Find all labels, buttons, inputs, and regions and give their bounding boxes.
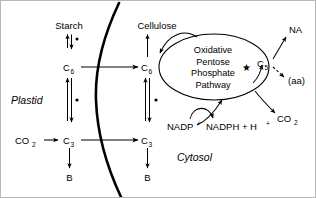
svg-text:2: 2	[294, 119, 298, 126]
oppp-line-4: Pathway	[195, 80, 231, 90]
svg-text:6: 6	[71, 68, 75, 75]
svg-text:C: C	[141, 135, 148, 146]
label-na: NA	[289, 24, 303, 35]
label-starch: Starch	[55, 20, 82, 31]
cytosol-c6-c3-marker-dot	[154, 98, 157, 101]
plastid-c6-c3-marker-dot	[75, 98, 78, 101]
pathway-figure: (aa) (dashed) --> ★ Starch Cellulose C 6…	[0, 0, 316, 198]
star-marker: ★	[242, 62, 251, 73]
svg-text:2: 2	[32, 141, 36, 148]
label-plastid-b: B	[66, 172, 72, 183]
svg-text:3: 3	[149, 141, 153, 148]
label-c5: C 5	[257, 58, 269, 71]
starch-reaction-marker-dot	[76, 38, 79, 41]
oppp-oval	[159, 34, 269, 100]
svg-text:NADP: NADP	[167, 121, 193, 132]
arrow-c5-to-aa-dashed	[273, 67, 284, 77]
svg-text:CO: CO	[15, 135, 29, 146]
arrow-c6-into-oppp	[160, 33, 197, 53]
label-nadph-h-plus: NADPH + H +	[206, 120, 270, 133]
svg-text:6: 6	[149, 68, 153, 75]
svg-text:NADPH + H: NADPH + H	[206, 121, 257, 132]
label-plastid-compartment: Plastid	[11, 94, 44, 106]
svg-text:+: +	[197, 120, 201, 127]
oppp-line-2: Pentose	[196, 57, 230, 67]
svg-text:C: C	[63, 62, 70, 73]
arrow-oppp-to-co2	[255, 91, 275, 113]
arrow-nadp-to-nadph	[190, 108, 213, 119]
svg-text:+: +	[266, 120, 270, 127]
plastid-envelope-membrane	[96, 3, 121, 197]
label-co2-output: CO 2	[277, 113, 298, 126]
svg-text:5: 5	[265, 64, 269, 71]
svg-text:C: C	[63, 135, 70, 146]
oppp-line-1: Oxidative	[194, 45, 232, 55]
label-cytosol-c6: C 6	[141, 62, 153, 75]
label-plastid-c3: C 3	[63, 135, 75, 148]
label-nadp-plus: NADP +	[167, 120, 201, 133]
label-cytosol-b: B	[144, 172, 150, 183]
label-co2-input: CO 2	[15, 135, 36, 148]
svg-text:C: C	[141, 62, 148, 73]
label-cytosol-compartment: Cytosol	[177, 151, 213, 163]
svg-text:C: C	[257, 58, 264, 69]
oppp-line-3: Phosphate	[191, 68, 235, 78]
pathway-diagram-canvas: (aa) (dashed) --> ★ Starch Cellulose C 6…	[1, 1, 316, 198]
svg-text:3: 3	[71, 141, 75, 148]
label-plastid-c6: C 6	[63, 62, 75, 75]
label-cellulose: Cellulose	[137, 20, 176, 31]
label-aa: (aa)	[288, 75, 305, 86]
label-cytosol-c3: C 3	[141, 135, 153, 148]
svg-text:CO: CO	[277, 113, 291, 124]
arrow-c5-to-na	[273, 37, 286, 59]
